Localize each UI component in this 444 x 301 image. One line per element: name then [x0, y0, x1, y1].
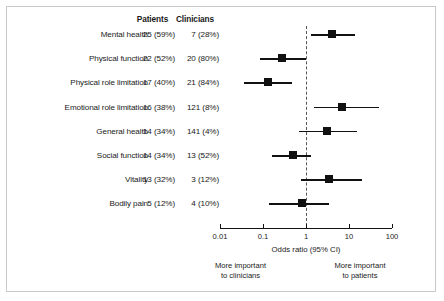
cell-clinicians: 7 (28%): [166, 30, 219, 39]
cell-clinicians: 13 (52%): [166, 151, 219, 160]
cell-clinicians: 141 (4%): [166, 127, 219, 136]
cell-clinicians: 4 (10%): [166, 199, 219, 208]
cell-clinicians: 21 (84%): [166, 78, 219, 87]
cell-clinicians: 121 (8%): [166, 103, 219, 112]
column-header-clinicians: Clinicians: [171, 14, 219, 24]
cell-clinicians: 3 (12%): [166, 175, 219, 184]
column-header-patients: Patients: [130, 14, 175, 24]
data-table: Patients Clinicians Mental health25 (59%…: [0, 0, 215, 301]
forest-plot-figure: Patients Clinicians Mental health25 (59%…: [0, 0, 444, 301]
cell-clinicians: 20 (80%): [166, 54, 219, 63]
